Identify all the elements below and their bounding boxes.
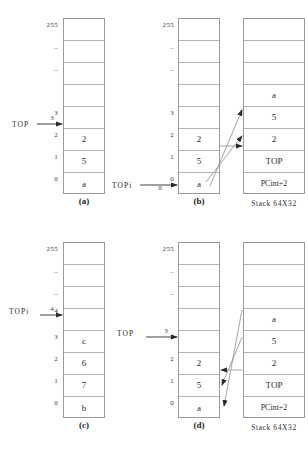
memory-cell [64,309,104,331]
stack-cell: TOP [244,375,304,397]
stack-cell: 5 [244,107,304,129]
memory-cell [64,265,104,287]
row-label-b-2: .. [148,66,174,73]
stack-label-d: Stack 64X32 [239,423,308,432]
stack-cell [244,243,304,265]
memory-cell [64,19,104,41]
stack-cell: PCint+2 [244,397,304,419]
memory-cell [64,63,104,85]
row-label-d-0: 255 [148,246,174,253]
row-label-d-4: 3 [148,334,174,341]
row-label-a-2: .. [18,66,58,73]
memory-cell: a [179,173,219,195]
row-label-b-5: 2 [148,132,174,139]
row-label-a-4: 3 [18,110,58,117]
row-label-d-1: .. [148,268,174,275]
row-label-c-1: .. [18,268,58,275]
row-label-c-7: 0 [18,400,58,407]
memory-cell [179,243,219,265]
row-label-c-5: 2 [18,356,58,363]
transfer-arrows-d [221,310,242,406]
row-label-b-7: 0 [148,176,174,183]
memory-column-a: 2 5 a [63,18,105,194]
panel-caption-b: (b) [178,196,220,206]
memory-cell: 5 [179,151,219,173]
pointer-label-topi-c: TOPi [9,307,30,316]
memory-cell: 2 [179,129,219,151]
memory-cell [179,107,219,129]
stack-cell: 2 [244,129,304,151]
pointer-label-top-d: TOP [117,329,134,338]
memory-cell [64,85,104,107]
memory-cell [64,287,104,309]
row-label-a-1: .. [18,44,58,51]
row-label-a-7: 0 [18,176,58,183]
row-label-b-4: 3 [148,110,174,117]
memory-column-d: 2 5 a [178,242,220,418]
memory-cell [64,243,104,265]
memory-cell [179,287,219,309]
memory-cell: c [64,331,104,353]
memory-cell: 2 [64,129,104,151]
panel-caption-d: (d) [178,420,220,430]
row-label-b-0: 255 [148,22,174,29]
memory-cell [179,19,219,41]
stack-cell [244,287,304,309]
memory-cell: a [179,397,219,419]
row-label-d-5: 2 [148,356,174,363]
row-label-d-7: 0 [148,400,174,407]
memory-column-c: c 6 7 b [63,242,105,418]
row-label-c-0: 255 [18,246,58,253]
stack-column-d: a 5 2 TOP PCint+2 [243,242,305,418]
row-label-c-2: .. [18,290,58,297]
stack-label-b: Stack 64X32 [239,199,308,208]
stack-cell: a [244,85,304,107]
row-label-c-6: 1 [18,378,58,385]
panel-caption-a: (a) [63,196,105,206]
stack-cell [244,41,304,63]
stack-cell: PCint+2 [244,173,304,195]
stack-cell [244,63,304,85]
memory-cell: a [64,173,104,195]
memory-cell: 5 [179,375,219,397]
memory-cell: b [64,397,104,419]
memory-cell [179,41,219,63]
pointer-label-top-a: TOP [12,120,29,129]
memory-cell [64,41,104,63]
stack-column-b: a 5 2 TOP PCint+2 [243,18,305,194]
row-label-d-6: 1 [148,378,174,385]
stack-cell: a [244,309,304,331]
memory-cell [179,63,219,85]
memory-cell: 7 [64,375,104,397]
row-label-a-6: 1 [18,154,58,161]
memory-cell [179,331,219,353]
memory-cell [179,265,219,287]
memory-cell [179,309,219,331]
stack-cell: TOP [244,151,304,173]
svg-text:0: 0 [158,184,162,192]
stack-cell [244,19,304,41]
memory-cell: 5 [64,151,104,173]
row-label-b-1: .. [148,44,174,51]
memory-cell [64,107,104,129]
memory-column-b: 2 5 a [178,18,220,194]
panel-caption-c: (c) [63,420,105,430]
row-label-a-5: 2 [18,132,58,139]
row-label-b-6: 1 [148,154,174,161]
row-label-a-0: 255 [18,22,58,29]
stack-cell: 5 [244,331,304,353]
row-label-d-2: .. [148,290,174,297]
row-label-c-4: 3 [18,334,58,341]
memory-cell: 6 [64,353,104,375]
pointer-label-topi-b: TOPi [112,181,133,190]
memory-cell: 2 [179,353,219,375]
stack-cell: 2 [244,353,304,375]
memory-cell [179,85,219,107]
stack-cell [244,265,304,287]
